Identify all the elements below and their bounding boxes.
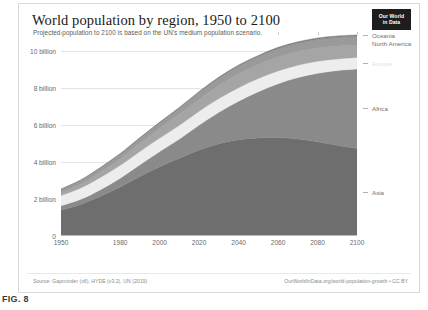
x-axis-line (61, 235, 357, 236)
legend-label-europe[interactable]: Europe (372, 60, 392, 68)
legend-connector-icon (363, 63, 368, 64)
legend-group-3: Asia (372, 189, 384, 197)
x-tickmark-1980 (120, 32, 121, 35)
x-axis-label-1980: 1980 (113, 239, 128, 246)
figure-root: World population by region, 1950 to 2100… (0, 0, 428, 310)
stacked-area-series (61, 32, 357, 236)
legend-connector-icon (363, 35, 368, 36)
footer-divider (27, 273, 411, 274)
legend-group-0: OceaniaNorth America (372, 32, 411, 48)
x-tickmark-1950 (61, 32, 62, 35)
x-axis-label-2000: 2000 (152, 239, 167, 246)
y-axis-label-10: 10 billion (30, 47, 56, 54)
our-world-in-data-logo[interactable]: Our World in Data (372, 9, 411, 30)
legend-group-2: Africa (372, 105, 388, 113)
x-tickmark-2100 (357, 32, 358, 35)
x-axis-label-2080: 2080 (310, 239, 325, 246)
x-axis-label-2020: 2020 (192, 239, 207, 246)
x-tickmark-2060 (278, 32, 279, 35)
x-axis-label-2040: 2040 (231, 239, 246, 246)
x-tickmark-2000 (160, 32, 161, 35)
legend-connector-icon (363, 192, 368, 193)
chart-title: World population by region, 1950 to 2100 (32, 12, 280, 29)
source-note: Source: Gapminder (v6), HYDE (v3.2), UN … (33, 278, 147, 284)
legend-label-oceania[interactable]: Oceania (372, 32, 411, 40)
legend-connector-icon (363, 108, 368, 109)
legend-label-africa[interactable]: Africa (372, 105, 388, 113)
chart-legend: OceaniaNorth AmericaEuropeAfricaAsia (363, 32, 423, 236)
credit-note[interactable]: OurWorldInData.org/world-population-grow… (284, 278, 408, 284)
chart-card: World population by region, 1950 to 2100… (18, 3, 420, 293)
x-axis-label-1950: 1950 (54, 239, 69, 246)
y-axis-label-4: 4 billion (34, 158, 56, 165)
x-tickmark-2080 (318, 32, 319, 35)
y-axis-label-2: 2 billion (34, 195, 56, 202)
legend-label-asia[interactable]: Asia (372, 189, 384, 197)
x-tickmark-2040 (239, 32, 240, 35)
figure-caption: FIG. 8 (2, 294, 29, 304)
legend-group-1: Europe (372, 60, 392, 68)
y-axis-label-8: 8 billion (34, 84, 56, 91)
x-tickmark-2020 (199, 32, 200, 35)
x-axis-label-2100: 2100 (350, 239, 365, 246)
legend-label-north-america[interactable]: North America (372, 40, 411, 48)
y-axis-label-6: 6 billion (34, 121, 56, 128)
plot-area: 02 billion4 billion6 billion8 billion10 … (61, 32, 357, 236)
logo-line-2: in Data (383, 20, 400, 26)
x-axis-label-2060: 2060 (271, 239, 286, 246)
